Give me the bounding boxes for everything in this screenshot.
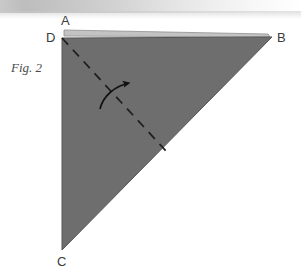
paper-triangle bbox=[62, 37, 272, 250]
vertex-label-d: D bbox=[46, 31, 55, 44]
paper-flap-strip bbox=[64, 30, 270, 37]
vertex-label-a: A bbox=[61, 14, 70, 27]
vertex-label-b: B bbox=[277, 31, 286, 44]
figure-page: A B C D Fig. 2 bbox=[0, 0, 301, 272]
vertex-label-c: C bbox=[57, 255, 66, 268]
figure-caption: Fig. 2 bbox=[11, 60, 42, 76]
